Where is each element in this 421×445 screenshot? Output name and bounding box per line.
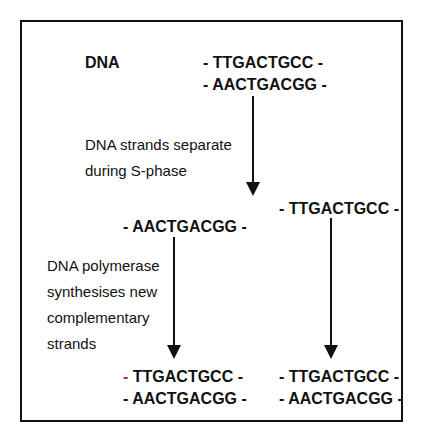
result-right-bottom-strand: - AACTGACGG -: [279, 390, 403, 408]
step2-caption-line3: complementary: [47, 305, 150, 331]
dna-label: DNA: [85, 54, 120, 72]
separation-arrow-line: [252, 96, 254, 184]
step2-caption-line1: DNA polymerase: [47, 253, 160, 279]
left-arrow-line: [173, 237, 175, 347]
right-arrow-line: [330, 218, 332, 347]
separated-left-strand: - AACTGACGG -: [123, 218, 247, 236]
step2-caption-line2: synthesises new: [47, 279, 157, 305]
result-left-bottom-strand: - AACTGACGG -: [123, 390, 247, 408]
left-arrow-head-icon: [167, 345, 181, 359]
step1-caption-line1: DNA strands separate: [85, 132, 232, 158]
step1-caption-line2: during S-phase: [85, 158, 187, 184]
right-arrow-head-icon: [324, 345, 338, 359]
result-left-top-strand: - TTGACTGCC -: [123, 368, 243, 386]
original-top-strand: - TTGACTGCC -: [203, 54, 323, 72]
result-left-top-sequence: TTGACTGCC -: [128, 368, 243, 385]
separated-right-strand: - TTGACTGCC -: [279, 200, 399, 218]
step2-caption-line4: strands: [47, 331, 96, 357]
original-bottom-strand: - AACTGACGG -: [203, 76, 327, 94]
separation-arrow-head-icon: [246, 182, 260, 196]
result-right-top-strand: - TTGACTGCC -: [279, 368, 399, 386]
